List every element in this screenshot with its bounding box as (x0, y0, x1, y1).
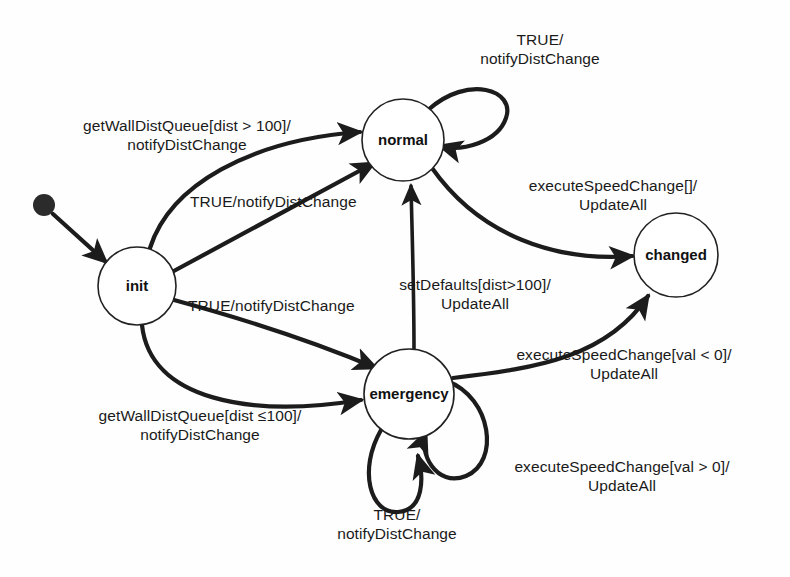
edge-label-normal-to-changed: executeSpeedChange[]/ UpdateAll (498, 176, 728, 215)
state-label-changed: changed (645, 246, 707, 263)
edge-init-to-emergency-getwalldist (142, 325, 361, 406)
edge-label-line1: executeSpeedChange[]/ (498, 176, 728, 195)
edge-label-line1: executeSpeedChange[val > 0]/ (487, 457, 757, 476)
edge-label-init-to-normal-getwalldist: getWallDistQueue[dist > 100]/ notifyDist… (42, 116, 332, 155)
edge-start-to-init (53, 214, 106, 262)
state-machine-diagram: init normal emergency changed getWallDis… (0, 0, 790, 577)
state-label-emergency: emergency (369, 385, 449, 402)
edge-label-line2: notifyDistChange (440, 49, 640, 68)
state-label-init: init (126, 277, 149, 294)
edge-label-init-to-emergency-getwalldist: getWallDistQueue[dist ≤100]/ notifyDistC… (55, 406, 345, 445)
edge-label-line1: TRUE/ (297, 505, 497, 524)
edge-label-emergency-to-changed: executeSpeedChange[val < 0]/ UpdateAll (489, 345, 759, 384)
edge-label-emergency-self-loop-bottom: TRUE/ notifyDistChange (297, 505, 497, 544)
edge-label-line1: getWallDistQueue[dist > 100]/ (42, 116, 332, 135)
edge-label-line2: UpdateAll (487, 476, 757, 495)
edge-label-line1: TRUE/ (440, 30, 640, 49)
edge-label-line2: UpdateAll (375, 294, 575, 313)
edge-emergency-self-loop-bottom (369, 430, 421, 512)
edge-label-line2: UpdateAll (489, 364, 759, 383)
edge-label-line2: UpdateAll (498, 195, 728, 214)
edge-label-init-to-normal-true: TRUE/notifyDistChange (190, 192, 420, 211)
edge-label-line1: setDefaults[dist>100]/ (375, 275, 575, 294)
edge-label-line1: getWallDistQueue[dist ≤100]/ (55, 406, 345, 425)
edge-label-line2: notifyDistChange (55, 425, 345, 444)
edge-label-emergency-to-normal: setDefaults[dist>100]/ UpdateAll (375, 275, 575, 314)
edge-label-normal-self-loop: TRUE/ notifyDistChange (440, 30, 640, 69)
edge-label-line2: notifyDistChange (42, 135, 332, 154)
edge-label-emergency-self-loop-right: executeSpeedChange[val > 0]/ UpdateAll (487, 457, 757, 496)
edge-label-line1: executeSpeedChange[val < 0]/ (489, 345, 759, 364)
edge-label-line1: TRUE/notifyDistChange (190, 192, 420, 211)
state-label-normal: normal (378, 131, 428, 148)
edge-label-line2: notifyDistChange (297, 524, 497, 543)
